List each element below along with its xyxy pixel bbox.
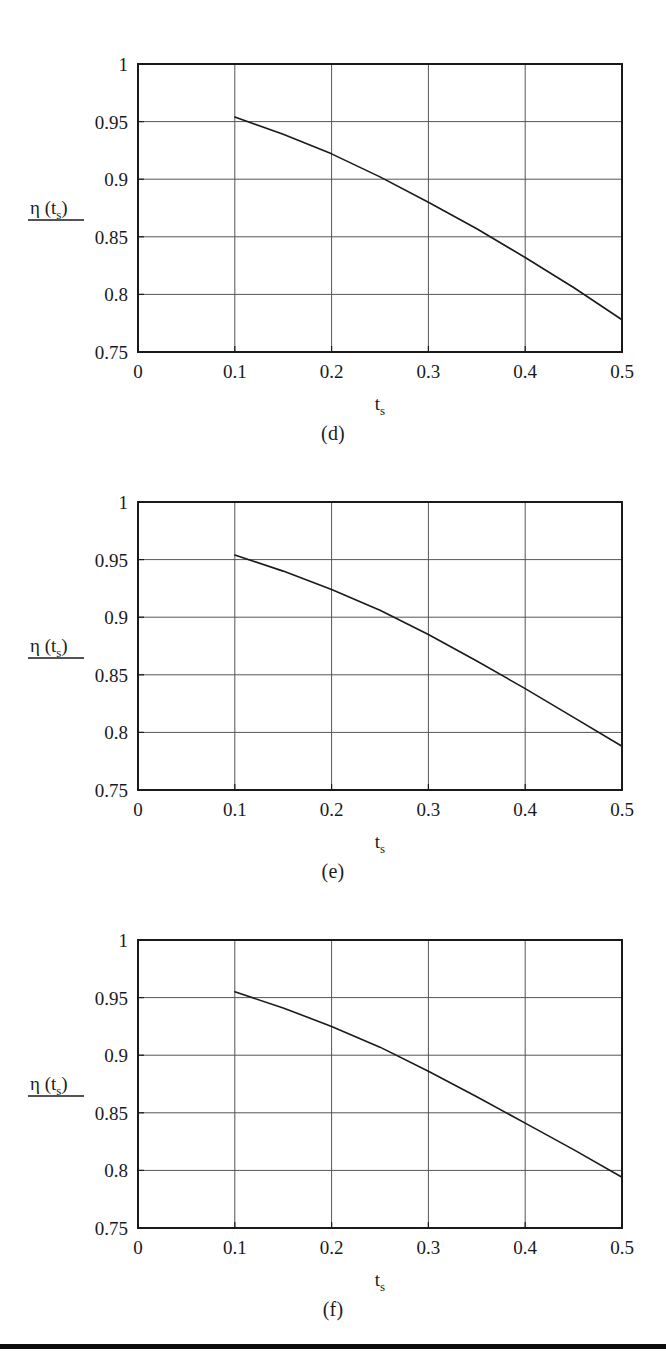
panel-caption-d: (d) xyxy=(0,422,666,445)
x-axis-title: ts xyxy=(375,393,385,418)
x-axis-title-subscript: s xyxy=(380,1279,385,1294)
chart-svg-e: 0.750.80.850.90.95100.10.20.30.40.5tsη (… xyxy=(0,448,666,858)
y-tick-label: 0.9 xyxy=(104,169,128,190)
y-tick-label: 0.75 xyxy=(95,342,128,363)
x-tick-label: 0.5 xyxy=(610,799,634,820)
x-axis-title: ts xyxy=(375,1269,385,1294)
chart-svg-d: 0.750.80.850.90.95100.10.20.30.40.5tsη (… xyxy=(0,10,666,420)
x-tick-label: 0.1 xyxy=(223,1237,247,1258)
chart-panel-e: 0.750.80.850.90.95100.10.20.30.40.5tsη (… xyxy=(0,448,666,888)
y-tick-label: 0.75 xyxy=(95,780,128,801)
y-tick-label: 1 xyxy=(119,54,129,75)
y-tick-label: 0.75 xyxy=(95,1218,128,1239)
x-tick-label: 0.4 xyxy=(513,361,537,382)
panel-caption-f: (f) xyxy=(0,1298,666,1321)
x-tick-label: 0.4 xyxy=(513,1237,537,1258)
y-tick-label: 0.9 xyxy=(104,607,128,628)
plot-frame xyxy=(138,64,622,352)
bottom-horizontal-rule xyxy=(0,1344,666,1349)
x-tick-label: 0.3 xyxy=(417,1237,441,1258)
y-tick-label: 0.85 xyxy=(95,1103,128,1124)
y-axis-title-close-paren: ) xyxy=(61,635,67,657)
y-axis-title: η (ts) xyxy=(30,197,68,222)
x-tick-label: 0.2 xyxy=(320,361,344,382)
x-tick-label: 0.2 xyxy=(320,799,344,820)
y-axis-title: η (ts) xyxy=(30,635,68,660)
x-tick-label: 0 xyxy=(133,799,143,820)
x-axis-title-subscript: s xyxy=(380,403,385,418)
plot-frame xyxy=(138,940,622,1228)
y-axis-title: η (ts) xyxy=(30,1073,68,1098)
y-tick-label: 0.95 xyxy=(95,112,128,133)
x-axis-title: ts xyxy=(375,831,385,856)
chart-svg-f: 0.750.80.850.90.95100.10.20.30.40.5tsη (… xyxy=(0,886,666,1296)
x-tick-label: 0.5 xyxy=(610,1237,634,1258)
chart-panel-d: 0.750.80.850.90.95100.10.20.30.40.5tsη (… xyxy=(0,10,666,450)
y-tick-label: 1 xyxy=(119,492,129,513)
x-tick-label: 0 xyxy=(133,361,143,382)
figure-page: 0.750.80.850.90.95100.10.20.30.40.5tsη (… xyxy=(0,0,666,1367)
x-tick-label: 0.5 xyxy=(610,361,634,382)
plot-frame xyxy=(138,502,622,790)
y-axis-title-close-paren: ) xyxy=(61,197,67,219)
y-tick-label: 0.85 xyxy=(95,227,128,248)
y-tick-label: 0.95 xyxy=(95,550,128,571)
x-tick-label: 0.3 xyxy=(417,799,441,820)
panel-caption-e: (e) xyxy=(0,860,666,883)
x-tick-label: 0.3 xyxy=(417,361,441,382)
chart-panel-f: 0.750.80.850.90.95100.10.20.30.40.5tsη (… xyxy=(0,886,666,1326)
y-tick-label: 0.9 xyxy=(104,1045,128,1066)
x-tick-label: 0.2 xyxy=(320,1237,344,1258)
x-tick-label: 0.4 xyxy=(513,799,537,820)
y-axis-title-close-paren: ) xyxy=(61,1073,67,1095)
y-tick-label: 0.8 xyxy=(104,1160,128,1181)
y-tick-label: 0.8 xyxy=(104,722,128,743)
x-axis-title-subscript: s xyxy=(380,841,385,856)
y-tick-label: 1 xyxy=(119,930,129,951)
y-tick-label: 0.95 xyxy=(95,988,128,1009)
x-tick-label: 0.1 xyxy=(223,361,247,382)
y-tick-label: 0.8 xyxy=(104,284,128,305)
x-tick-label: 0 xyxy=(133,1237,143,1258)
x-tick-label: 0.1 xyxy=(223,799,247,820)
y-tick-label: 0.85 xyxy=(95,665,128,686)
